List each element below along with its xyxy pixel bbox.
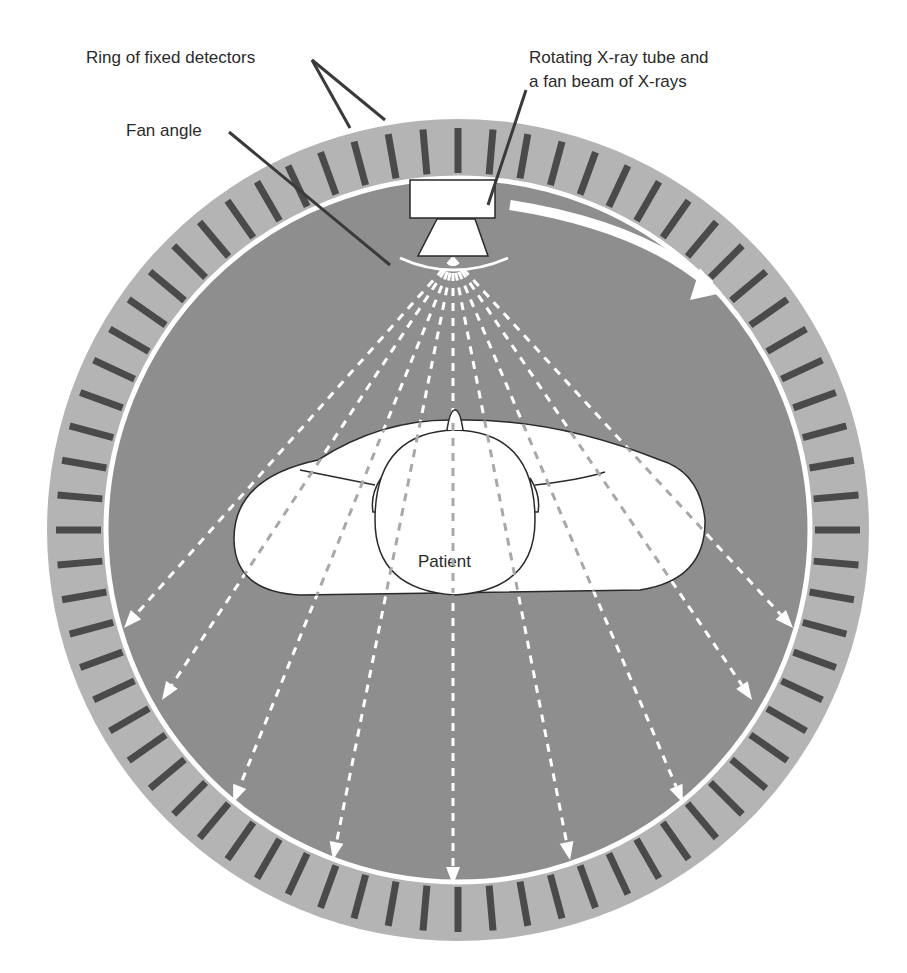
leader-detectors-b <box>312 60 385 120</box>
xray-tube-housing <box>410 180 495 218</box>
label-xray-tube-line1: Rotating X-ray tube and <box>529 48 709 67</box>
detector-element <box>58 495 103 499</box>
label-ring-of-detectors: Ring of fixed detectors <box>86 48 255 67</box>
detector-element <box>814 495 859 499</box>
detector-element <box>423 130 427 175</box>
detector-element <box>489 886 493 931</box>
leader-detectors-a <box>312 60 350 128</box>
detector-element <box>814 561 859 565</box>
detector-element <box>58 561 103 565</box>
label-fan-angle: Fan angle <box>126 121 202 140</box>
ct-scanner-diagram: Patient Ring of fixed detectors Rotating… <box>0 0 907 973</box>
patient-label: Patient <box>418 552 471 571</box>
detector-element <box>489 130 493 175</box>
detector-element <box>423 886 427 931</box>
label-xray-tube-line2: a fan beam of X-rays <box>529 72 687 91</box>
